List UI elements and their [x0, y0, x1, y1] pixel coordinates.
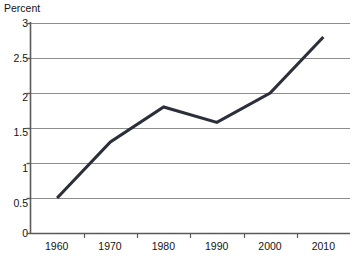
- x-tick-label-1990: 1990: [190, 240, 243, 256]
- line-chart: Percent 3 2.5 2 1.5 1 0.5 0 1960 1970 19…: [0, 0, 353, 263]
- gridlines: [31, 24, 351, 234]
- x-axis-tick-labels: 1960 1970 1980 1990 2000 2010: [30, 240, 350, 256]
- x-tick-label-2010: 2010: [297, 240, 350, 256]
- x-tick-label-2000: 2000: [243, 240, 296, 256]
- data-series-line: [57, 37, 323, 198]
- x-tick-label-1980: 1980: [137, 240, 190, 256]
- x-tick-label-1970: 1970: [83, 240, 136, 256]
- x-tick-label-1960: 1960: [30, 240, 83, 256]
- plot-area: [0, 0, 353, 263]
